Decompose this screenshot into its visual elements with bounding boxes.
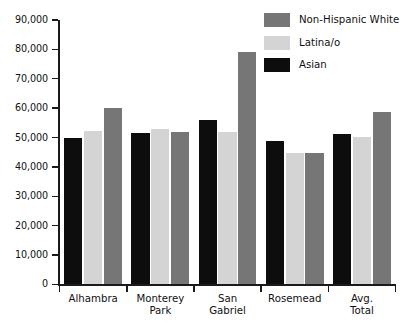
bar-latina	[84, 131, 102, 285]
legend-swatch-icon	[264, 58, 290, 72]
x-axis-category-label: Alhambra	[60, 293, 127, 305]
y-axis-tick-label: 80,000	[0, 44, 48, 54]
legend-item[interactable]: Non-Hispanic White	[264, 11, 401, 34]
y-axis-tick-label: 0	[0, 279, 48, 289]
bar-asian	[333, 134, 351, 285]
legend-label: Latina/o	[299, 36, 340, 50]
y-axis-tick-label: 50,000	[0, 133, 48, 143]
bar-group	[127, 20, 194, 284]
y-axis-tick-label: 70,000	[0, 74, 48, 84]
bar-nhwhite	[305, 153, 323, 285]
legend-swatch-icon	[264, 36, 290, 50]
bar-nhwhite	[171, 132, 189, 284]
bar-asian	[131, 133, 149, 284]
x-axis-tick	[260, 286, 262, 292]
x-axis-tick	[59, 286, 61, 292]
x-axis-tick	[193, 286, 195, 292]
y-axis-tick-label: 90,000	[0, 15, 48, 25]
x-axis-category-label: Avg. Total	[328, 293, 395, 318]
bar-asian	[266, 141, 284, 285]
y-axis-tick-label: 10,000	[0, 250, 48, 260]
y-axis-tick-label: 40,000	[0, 162, 48, 172]
legend-item[interactable]: Latina/o	[264, 34, 401, 57]
bar-nhwhite	[373, 112, 391, 285]
y-axis-tick-label: 20,000	[0, 221, 48, 231]
x-axis-category-label: San Gabriel	[194, 293, 261, 318]
x-axis-category-label: Monterey Park	[127, 293, 194, 318]
bar-latina	[353, 137, 371, 284]
bar-asian	[64, 138, 82, 285]
chart-legend: Non-Hispanic WhiteLatina/oAsian	[264, 11, 401, 79]
y-axis-tick-label: 30,000	[0, 191, 48, 201]
bar-group	[60, 20, 127, 284]
legend-label: Non-Hispanic White	[299, 13, 399, 27]
bar-latina	[286, 153, 304, 284]
bar-nhwhite	[104, 108, 122, 285]
legend-item[interactable]: Asian	[264, 56, 401, 79]
bar-latina	[218, 132, 236, 285]
x-axis-line	[58, 284, 396, 286]
y-axis-tick-label: 60,000	[0, 103, 48, 113]
bar-latina	[151, 129, 169, 284]
legend-swatch-icon	[264, 13, 290, 27]
bar-chart: 90,00080,00070,00060,00050,00040,00030,0…	[0, 0, 401, 326]
bar-asian	[199, 120, 217, 284]
x-axis-tick	[126, 286, 128, 292]
bar-group	[194, 20, 261, 284]
x-axis-category-label: Rosemead	[261, 293, 328, 305]
bar-nhwhite	[238, 52, 256, 285]
x-axis-tick	[328, 286, 330, 292]
legend-label: Asian	[299, 58, 327, 72]
x-axis-tick	[395, 286, 397, 292]
